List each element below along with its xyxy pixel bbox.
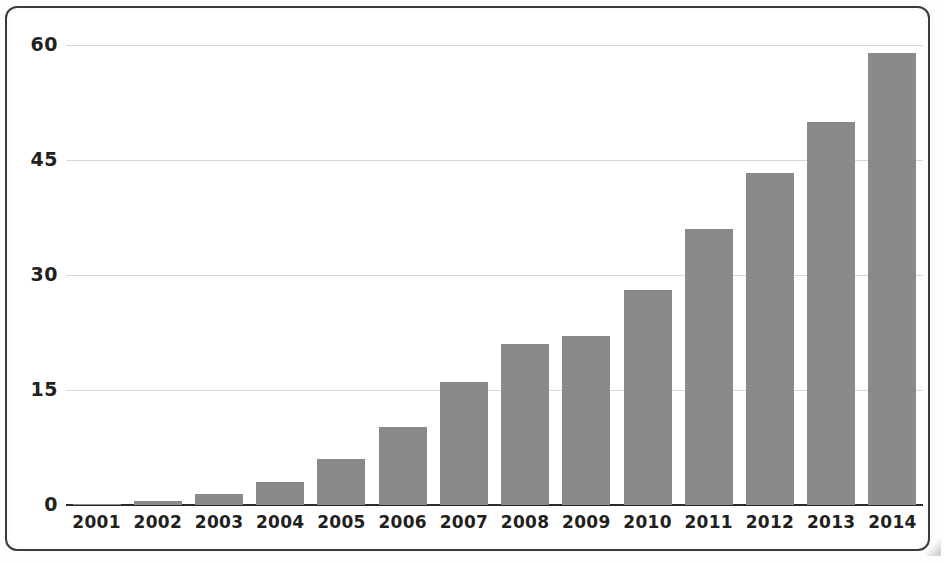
x-tick-label-2001: 2001 <box>62 512 132 532</box>
x-tick-label-2008: 2008 <box>490 512 560 532</box>
x-tick-label-2005: 2005 <box>306 512 376 532</box>
gridline-60 <box>66 45 923 46</box>
bar-2004 <box>256 482 304 505</box>
bar-2009 <box>562 336 610 505</box>
x-tick-label-2002: 2002 <box>123 512 193 532</box>
y-tick-label: 60 <box>18 35 58 54</box>
x-tick-label-2006: 2006 <box>368 512 438 532</box>
x-tick-label-2014: 2014 <box>857 512 927 532</box>
y-tick-label: 15 <box>18 380 58 399</box>
x-tick-label-2003: 2003 <box>184 512 254 532</box>
y-tick-label: 30 <box>18 265 58 284</box>
page-corner-smudge <box>925 538 941 556</box>
gridline-15 <box>66 390 923 391</box>
figure-container: 015304560 200120022003200420052006200720… <box>0 0 945 562</box>
x-tick-label-2009: 2009 <box>551 512 621 532</box>
bar-2005 <box>317 459 365 505</box>
x-tick-label-2007: 2007 <box>429 512 499 532</box>
x-tick-label-2012: 2012 <box>735 512 805 532</box>
bar-chart-plot-area: 015304560 200120022003200420052006200720… <box>0 0 945 562</box>
y-tick-label: 45 <box>18 150 58 169</box>
bar-2013 <box>807 122 855 505</box>
bar-2008 <box>501 344 549 505</box>
bar-2001 <box>73 504 121 505</box>
bar-2007 <box>440 382 488 505</box>
gridline-30 <box>66 275 923 276</box>
bar-2003 <box>195 494 243 506</box>
bar-2010 <box>624 290 672 505</box>
bar-2014 <box>868 53 916 505</box>
x-tick-label-2004: 2004 <box>245 512 315 532</box>
x-tick-label-2010: 2010 <box>613 512 683 532</box>
gridline-45 <box>66 160 923 161</box>
x-tick-label-2013: 2013 <box>796 512 866 532</box>
bar-2002 <box>134 501 182 505</box>
x-tick-label-2011: 2011 <box>674 512 744 532</box>
bar-2012 <box>746 173 794 505</box>
bar-2006 <box>379 427 427 505</box>
y-tick-label: 0 <box>18 495 58 514</box>
bar-2011 <box>685 229 733 505</box>
